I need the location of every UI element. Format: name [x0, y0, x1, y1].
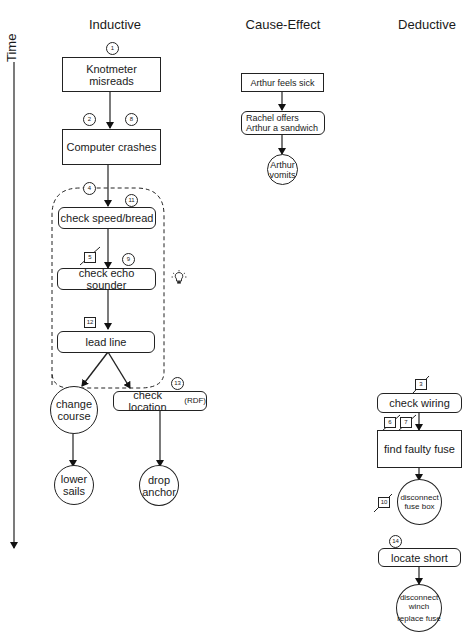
lightbulb-icon	[171, 270, 187, 286]
step-marker-crossed: 5	[84, 252, 96, 263]
node-disconnect-winch-label: disconnect winch	[397, 593, 441, 611]
node-disconnect-winch-replace-fuse: disconnect winch replace fuse	[396, 584, 442, 632]
node-replace-fuse-label: replace fuse	[397, 614, 441, 623]
step-marker-crossed: 3	[415, 379, 427, 390]
node-lower-sails: lower sails	[54, 465, 94, 505]
node-drop-anchor: drop anchor	[139, 465, 179, 506]
step-marker-1: 1	[106, 42, 119, 55]
step-marker-12: 12	[84, 317, 96, 328]
node-check-wiring: check wiring	[377, 393, 462, 413]
step-marker-14: 14	[389, 535, 402, 548]
node-locate-short: locate short	[378, 548, 461, 567]
heading-deductive: Deductive	[392, 17, 462, 32]
node-check-location: check location (RDF)	[113, 391, 207, 411]
node-knotmeter-misreads: Knotmeter misreads	[62, 57, 161, 92]
node-arthur-feels-sick: Arthur feels sick	[241, 73, 324, 92]
step-marker-2: 2	[83, 113, 96, 126]
step-marker-crossed: 10	[378, 497, 390, 508]
node-disconnect-fuse-box: disconnect fuse box	[397, 479, 442, 525]
connector-layer	[0, 0, 475, 638]
node-change-course: change course	[50, 386, 98, 434]
step-marker-crossed: 7	[400, 417, 412, 428]
step-marker-crossed: 6	[384, 417, 396, 428]
node-find-faulty-fuse: find faulty fuse	[377, 430, 462, 468]
step-marker-9: 9	[122, 253, 135, 266]
node-computer-crashes: Computer crashes	[62, 129, 161, 165]
time-axis-label: Time	[4, 34, 19, 62]
node-lead-line: lead line	[57, 331, 155, 353]
node-check-speed-bread: check speed/bread	[58, 207, 156, 229]
node-check-echo-sounder: check echo sounder	[57, 268, 156, 290]
edge-leadline-changecourse	[82, 352, 108, 386]
edge-leadline-checklocation	[108, 352, 130, 388]
step-marker-11: 11	[125, 194, 138, 207]
node-rachel-offers-sandwich: Rachel offers Arthur a sandwich	[241, 111, 325, 135]
node-check-location-suffix: (RDF)	[184, 395, 206, 407]
node-arthur-vomits: Arthur vomits	[267, 154, 298, 185]
heading-inductive: Inductive	[85, 17, 145, 32]
node-check-location-label: check location	[114, 389, 181, 413]
step-marker-4: 4	[83, 182, 96, 195]
step-marker-8: 8	[125, 113, 138, 126]
heading-cause-effect: Cause-Effect	[243, 17, 323, 32]
